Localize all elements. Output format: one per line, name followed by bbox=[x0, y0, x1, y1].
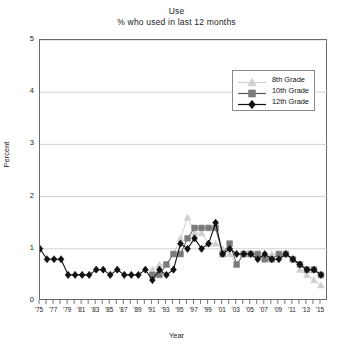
legend-symbol-diamond-icon bbox=[237, 96, 267, 107]
x-tick-label: '15 bbox=[309, 306, 331, 313]
legend-item[interactable]: 12th Grade bbox=[237, 96, 309, 107]
legend-label: 10th Grade bbox=[267, 86, 309, 95]
legend-symbol-triangle-icon bbox=[237, 74, 267, 85]
chart-legend: 8th Grade10th Grade12th Grade bbox=[232, 70, 315, 111]
legend-item[interactable]: 8th Grade bbox=[237, 74, 309, 85]
legend-label: 8th Grade bbox=[267, 75, 305, 84]
legend-symbol-square-icon bbox=[237, 85, 267, 96]
chart-figure: Use % who used in last 12 months 012345 … bbox=[0, 0, 353, 355]
legend-label: 12th Grade bbox=[267, 97, 309, 106]
x-axis-ticks bbox=[0, 0, 353, 355]
x-axis-title: Year bbox=[0, 331, 353, 340]
legend-item[interactable]: 10th Grade bbox=[237, 85, 309, 96]
